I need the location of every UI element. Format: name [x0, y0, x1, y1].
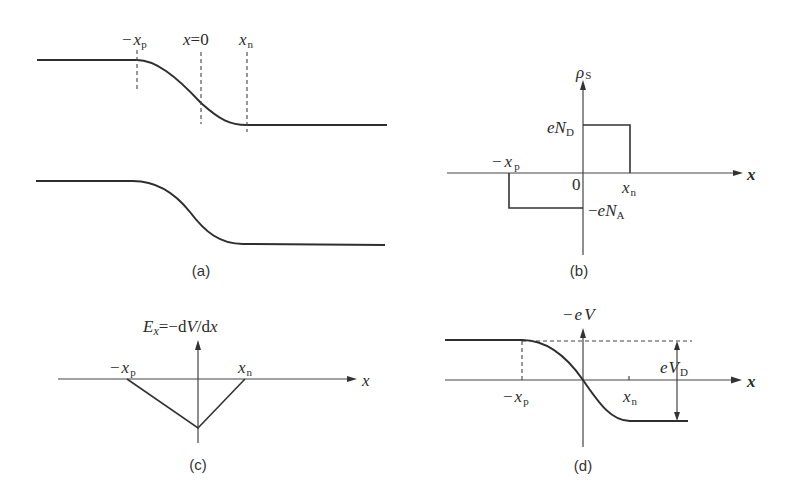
caption-a: (a)	[192, 262, 210, 279]
origin-label: 0	[572, 175, 581, 194]
caption-c: (c)	[189, 456, 207, 473]
x-axis-label: x	[361, 371, 370, 390]
background	[0, 0, 787, 501]
x-axis-label: x	[746, 372, 756, 391]
pn-junction-figure: −xp x=0 xn (a) ρS eND −xp 0 xn −eNA x (b…	[0, 0, 787, 501]
y-axis-label-neg-ev: −eV	[563, 305, 597, 324]
caption-d: (d)	[574, 457, 592, 474]
label-x-equals-0: x=0	[182, 30, 209, 49]
caption-b: (b)	[570, 262, 588, 279]
x-axis-label: x	[746, 165, 756, 184]
